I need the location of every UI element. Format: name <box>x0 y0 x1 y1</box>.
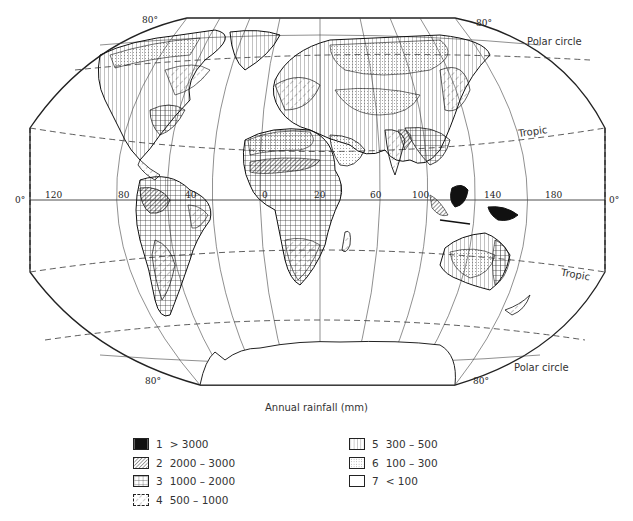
swatch-sparse-hatch-icon <box>133 494 149 506</box>
map-caption: Annual rainfall (mm) <box>0 402 633 413</box>
legend-item-6: 6 100 – 300 <box>349 454 438 473</box>
legend-item-3: 3 1000 – 2000 <box>133 472 235 491</box>
lon-label-40: 40 <box>185 190 196 200</box>
legend-item-2: 2 2000 – 3000 <box>133 454 235 473</box>
lon-label-60: 60 <box>370 190 381 200</box>
polar-circle-north-label: Polar circle <box>527 36 582 47</box>
swatch-dense-hatch-icon <box>133 457 149 469</box>
swatch-vertical-lines-icon <box>349 438 365 450</box>
lon-label-140: 140 <box>484 190 501 200</box>
swatch-grid-icon <box>133 475 149 487</box>
legend-left: 1 > 3000 2 2000 – 3000 3 1000 – 2000 4 5… <box>133 435 235 509</box>
swatch-stipple-icon <box>349 457 365 469</box>
polar-circle-south-label: Polar circle <box>514 362 569 373</box>
legend-item-4: 4 500 – 1000 <box>133 491 235 510</box>
lon-label-120: 120 <box>45 190 62 200</box>
lon-label-100: 100 <box>412 190 429 200</box>
lat-label-equator-right: 0° <box>609 195 619 205</box>
lat-label-equator-left: 0° <box>15 195 25 205</box>
legend-item-1: 1 > 3000 <box>133 435 235 454</box>
swatch-solid-black-icon <box>133 438 149 450</box>
lon-label-0: 0 <box>262 190 268 200</box>
legend-right: 5 300 – 500 6 100 – 300 7 < 100 <box>349 435 438 491</box>
world-rainfall-map <box>0 0 633 400</box>
legend-item-5: 5 300 – 500 <box>349 435 438 454</box>
lat-label-80s-left: 80° <box>145 376 161 386</box>
swatch-blank-icon <box>349 475 365 487</box>
lat-label-80n-left: 80° <box>142 15 158 25</box>
lon-label-20: 20 <box>314 190 325 200</box>
lat-label-80s-right: 80° <box>473 376 489 386</box>
lon-label-180: 180 <box>545 190 562 200</box>
lon-label-80: 80 <box>118 190 129 200</box>
legend-item-7: 7 < 100 <box>349 472 438 491</box>
lat-label-80n-right: 80° <box>476 18 492 28</box>
